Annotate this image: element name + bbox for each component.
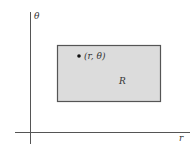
- theta-axis-label: θ: [34, 11, 40, 21]
- polar-rectangle-diagram: θ r (r, θ) R: [0, 0, 196, 146]
- point-label: (r, θ): [84, 51, 106, 61]
- r-axis-label: r: [179, 133, 184, 143]
- region-label: R: [118, 76, 126, 86]
- region-r: [58, 46, 161, 102]
- point-marker: [77, 54, 81, 58]
